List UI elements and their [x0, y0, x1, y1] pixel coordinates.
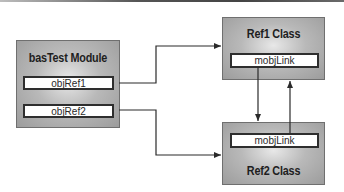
arrow-objref2-to-ref2 — [119, 110, 221, 155]
arrow-objref1-to-ref1 — [119, 46, 221, 83]
connector-layer — [0, 0, 344, 192]
